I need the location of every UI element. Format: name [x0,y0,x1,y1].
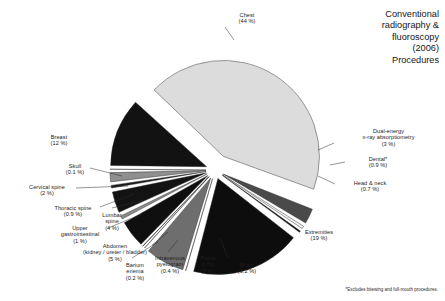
slice-label-value: (0.1 %) [58,169,92,175]
leader-cervical [76,186,128,188]
slice-label-value: (1 %) [52,238,108,244]
slice-label-value: (0.9 %) [44,211,102,217]
slice-label-name: Barium enema [118,262,152,275]
chart-footnote: *Excludes bitewing and full-mouth proced… [345,287,438,292]
slice-label-value: (4 %) [95,225,129,231]
slice-label-dxa: Dual-energy x-ray absorptiometry(3 %) [336,128,441,147]
slice-label-value: (44 %) [212,18,282,24]
slice-label-name: Dual-energy x-ray absorptiometry [336,128,441,141]
slice-label-value: (0.2 %) [118,275,152,281]
slice-label-cervical-spine: Cervical spine(2 %) [18,184,76,197]
slice-label-head-neck: Head & neck(0.7 %) [337,180,403,193]
leader-chest [225,27,234,40]
chart-title: Conventional radiography & fluoroscopy (… [313,9,439,66]
slice-label-value: (3 %) [336,141,441,147]
slice-label-value: (0.7 %) [337,186,403,192]
slice-label-dental: Dental*(0.9 %) [348,156,408,169]
slice-label-value: (19 %) [286,235,352,241]
slice-label-value: (0.9 %) [348,162,408,168]
slice-label-value: (12 %) [40,140,78,146]
slice-label-value: (5 %) [74,256,156,262]
pie-slice[interactable] [110,169,206,170]
slice-label-extremities: Extremities(19 %) [286,229,352,242]
slice-label-pelvis-hip: Pelvis & hip(7 %) [190,255,226,274]
slice-label-name: Pelvis & hip [190,255,226,268]
slice-label-value: (0.2 %) [226,268,268,274]
leader-dxa [318,143,334,150]
slice-label-barium-enema: Barium enema(0.2 %) [118,262,152,281]
slice-label-breast: Breast(12 %) [40,134,78,147]
slice-label-value: (7 %) [190,268,226,274]
slice-label-value: (0.4 %) [148,268,192,274]
leader-head-neck [318,176,335,184]
slice-label-chest: Chest(44 %) [212,12,282,25]
leader-dental [330,162,345,165]
slice-label-value: (2 %) [18,190,76,196]
slice-label-skull: Skull(0.1 %) [58,163,92,176]
slice-label-biliary: Biliary(0.2 %) [226,262,268,275]
slice-label-name: Abdomen (kidney / ureter / bladder) [74,243,156,256]
slice-label-abdomen: Abdomen (kidney / ureter / bladder)(5 %) [74,243,156,262]
slice-label-thoracic-spine: Thoracic spine(0.9 %) [44,205,102,218]
